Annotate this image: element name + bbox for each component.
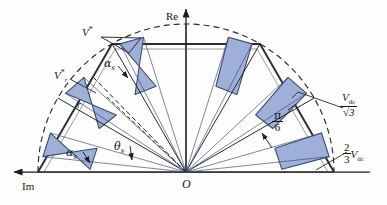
pi-over-six-label: π 6 (272, 110, 283, 133)
alpha-s-upper-arrow (118, 66, 128, 78)
vdc-over-sqrt3-label: Vdc √3 (340, 92, 357, 118)
v-r-star-label: V*r (54, 68, 67, 84)
v-star-label: V* (82, 25, 93, 38)
theta-s-arrow (130, 146, 132, 160)
figure-canvas: Re Im O V* V*r r αs αs θs π 6 Vdc √3 2 3… (0, 0, 387, 205)
alpha-s-upper-label: αs (104, 57, 115, 72)
two-thirds-vdc-label: 2 3 Vdc (343, 142, 364, 165)
theta-s-label: θs (114, 140, 124, 155)
axis-label-im: Im (22, 181, 34, 192)
axis-label-re: Re (166, 11, 178, 22)
origin-label: O (182, 178, 191, 190)
diagram-svg (0, 0, 387, 205)
alpha-s-lower-label: αs (66, 146, 77, 161)
radius-r-label: r (77, 100, 81, 110)
pi-over-six-arrow (262, 133, 272, 148)
